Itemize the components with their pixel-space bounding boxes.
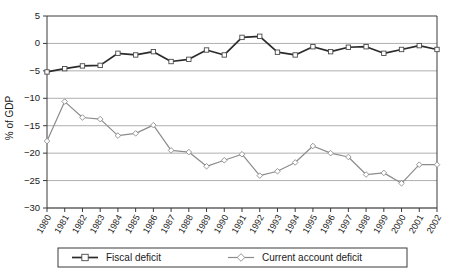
x-tick-label: 1999 bbox=[371, 213, 390, 235]
x-tick-label: 2000 bbox=[389, 213, 408, 235]
data-point-marker bbox=[434, 162, 440, 168]
series-line-square bbox=[47, 36, 437, 72]
x-tick-label: 1994 bbox=[283, 213, 302, 235]
y-axis-label: % of GDP bbox=[4, 95, 15, 140]
legend-label: Fiscal deficit bbox=[106, 252, 161, 263]
legend-label: Current account deficit bbox=[262, 252, 362, 263]
x-tick-label: 1995 bbox=[300, 213, 319, 235]
x-tick-label: 1986 bbox=[141, 213, 160, 235]
y-tick-label: 5 bbox=[35, 10, 40, 21]
y-tick-label: −10 bbox=[24, 92, 40, 103]
x-tick-label: 1997 bbox=[336, 213, 355, 235]
data-point-marker bbox=[187, 57, 191, 61]
data-point-marker bbox=[328, 150, 334, 156]
data-point-marker bbox=[381, 170, 387, 176]
data-point-marker bbox=[311, 45, 315, 49]
x-tick-label: 1985 bbox=[123, 213, 142, 235]
y-tick-label: −15 bbox=[24, 120, 40, 131]
data-point-marker bbox=[80, 64, 84, 68]
x-tick-label: 1989 bbox=[194, 213, 213, 235]
data-point-marker bbox=[44, 138, 50, 144]
y-tick-label: 0 bbox=[35, 37, 40, 48]
data-point-marker bbox=[399, 47, 403, 51]
data-point-marker bbox=[328, 49, 332, 53]
data-point-marker bbox=[222, 53, 226, 57]
x-tick-label: 1981 bbox=[52, 213, 71, 235]
chart-figure: 50−5−10−15−20−25−30 19801981198219831984… bbox=[0, 0, 453, 273]
x-tick-label: 1992 bbox=[247, 213, 266, 235]
x-tick-label: 1998 bbox=[354, 213, 373, 235]
x-tick-label: 1983 bbox=[88, 213, 107, 235]
y-tick-label: −5 bbox=[29, 65, 40, 76]
plot-frame bbox=[47, 16, 437, 208]
x-tick-label: 1990 bbox=[212, 213, 231, 235]
legend-entry[interactable]: Current account deficit bbox=[228, 252, 362, 263]
x-tick-label: 2002 bbox=[425, 213, 444, 235]
x-tick-label: 1991 bbox=[230, 213, 249, 235]
data-point-marker bbox=[133, 53, 137, 57]
series-line-diamond bbox=[47, 102, 437, 184]
y-axis-ticks: 50−5−10−15−20−25−30 bbox=[24, 10, 47, 213]
gridlines bbox=[47, 43, 437, 208]
y-tick-label: −30 bbox=[24, 202, 40, 213]
legend-marker-square-icon bbox=[82, 254, 88, 260]
data-point-marker bbox=[204, 48, 208, 52]
data-point-marker bbox=[346, 45, 350, 49]
data-point-marker bbox=[382, 51, 386, 55]
x-tick-label: 1980 bbox=[35, 213, 54, 235]
data-point-marker bbox=[169, 59, 173, 63]
data-point-marker bbox=[63, 66, 67, 70]
x-tick-label: 1984 bbox=[105, 213, 124, 235]
data-point-marker bbox=[275, 168, 281, 174]
data-point-marker bbox=[364, 45, 368, 49]
x-tick-label: 1993 bbox=[265, 213, 284, 235]
line-chart: 50−5−10−15−20−25−30 19801981198219831984… bbox=[0, 0, 453, 273]
data-point-marker bbox=[98, 63, 102, 67]
legend-marker-diamond-icon bbox=[237, 254, 245, 262]
x-tick-label: 1982 bbox=[70, 213, 89, 235]
x-tick-label: 1987 bbox=[159, 213, 178, 235]
x-tick-label: 1996 bbox=[318, 213, 337, 235]
x-axis-ticks: 1980198119821983198419851986198719881989… bbox=[35, 208, 444, 235]
legend-entry[interactable]: Fiscal deficit bbox=[72, 252, 161, 263]
data-point-marker bbox=[151, 49, 155, 53]
data-point-marker bbox=[221, 157, 227, 163]
data-point-marker bbox=[258, 34, 262, 38]
data-point-marker bbox=[116, 51, 120, 55]
data-point-marker bbox=[45, 70, 49, 74]
chart-legend: Fiscal deficitCurrent account deficit bbox=[58, 248, 407, 267]
y-tick-label: −20 bbox=[24, 147, 40, 158]
data-point-marker bbox=[240, 35, 244, 39]
x-tick-label: 1988 bbox=[176, 213, 195, 235]
y-tick-label: −25 bbox=[24, 175, 40, 186]
data-point-marker bbox=[293, 53, 297, 57]
data-point-marker bbox=[435, 47, 439, 51]
data-series bbox=[44, 34, 440, 186]
data-point-marker bbox=[275, 50, 279, 54]
data-point-marker bbox=[133, 131, 139, 137]
x-tick-label: 2001 bbox=[407, 213, 426, 235]
data-point-marker bbox=[417, 43, 421, 47]
